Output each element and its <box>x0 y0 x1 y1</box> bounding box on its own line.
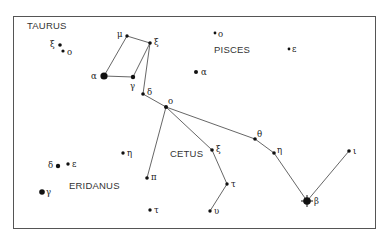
constellation-line <box>127 36 150 43</box>
star-cet_upsilon <box>208 209 211 212</box>
star-cet_pi <box>145 176 149 180</box>
constellation-line <box>212 150 227 184</box>
star-eri_delta <box>56 164 60 168</box>
star-label: α <box>91 72 97 81</box>
constellation-label: PISCES <box>214 44 250 55</box>
constellation-line <box>307 151 349 201</box>
constellation-label: TAURUS <box>27 20 67 31</box>
star-cet_alpha <box>100 72 107 79</box>
constellation-line <box>274 153 307 201</box>
star-label: o <box>218 30 223 39</box>
star-label: ε <box>72 160 76 169</box>
star-label: π <box>151 173 157 182</box>
star-psc_epsilon <box>288 48 291 51</box>
constellation-line <box>255 139 274 153</box>
star-label: γ <box>130 82 135 91</box>
constellation-diagram <box>0 0 391 243</box>
star-label: υ <box>214 207 219 216</box>
star-cet_delta <box>141 92 145 96</box>
star-label: o <box>67 48 72 57</box>
star-label: η <box>127 149 132 158</box>
star-eri_gamma <box>39 189 45 195</box>
constellation-line <box>147 107 166 178</box>
star-eri_tau <box>148 208 151 211</box>
star-label: δ <box>147 88 152 97</box>
star-label: τ <box>154 206 159 215</box>
star-cet_xi1 <box>210 148 214 152</box>
star-cet_xi2 <box>148 41 152 45</box>
star-label: ι <box>353 147 356 156</box>
star-label: δ <box>48 161 53 170</box>
star-eri_eta <box>121 151 124 154</box>
star-chart: ξoμξαγδoπξτυθηβιoεαδεηγτTAURUSPISCESCETU… <box>0 0 391 243</box>
star-psc_alpha <box>194 70 198 74</box>
star-label: τ <box>231 180 236 189</box>
star-label: α <box>201 68 207 77</box>
constellation-label: ERIDANUS <box>69 180 120 191</box>
constellation-line <box>166 107 212 150</box>
star-cet_tau <box>225 182 228 185</box>
star-label: ε <box>292 45 296 54</box>
star-cet_eta <box>272 151 276 155</box>
star-tau_o <box>61 49 64 52</box>
star-label: ξ <box>50 40 55 49</box>
star-cet_iota <box>347 149 351 153</box>
star-eri_epsilon <box>66 162 69 165</box>
star-psc_o <box>214 32 217 35</box>
constellation-line <box>166 107 255 139</box>
star-tau_xi <box>58 43 62 47</box>
constellation-line <box>104 36 127 76</box>
star-label: β <box>314 197 319 206</box>
star-label: μ <box>117 30 123 39</box>
star-cet_gamma <box>131 75 135 79</box>
constellation-label: CETUS <box>170 148 203 159</box>
star-label: o <box>168 97 173 106</box>
star-spike-icon <box>301 195 313 207</box>
star-label: η <box>277 146 282 155</box>
star-label: γ <box>46 188 51 197</box>
star-label: ξ <box>154 38 159 47</box>
star-label: ξ <box>216 145 221 154</box>
star-label: θ <box>257 130 262 139</box>
star-cet_mu <box>125 34 128 37</box>
constellation-line <box>104 76 133 77</box>
